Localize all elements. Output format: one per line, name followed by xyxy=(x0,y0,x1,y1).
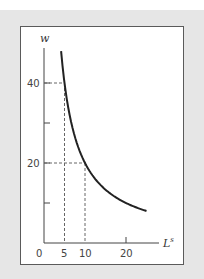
x-axis-label: Ls xyxy=(162,236,174,250)
y-axis-label: w xyxy=(40,32,50,45)
x-axis-label-main: L xyxy=(162,237,170,250)
x-tick-label-20: 20 xyxy=(120,248,133,259)
x-tick-label-5: 5 xyxy=(61,248,67,259)
x-tick-label-10: 10 xyxy=(79,248,92,259)
chart-svg: 40 20 0 5 10 20 w Ls xyxy=(0,0,204,279)
x-axis-label-sup: s xyxy=(170,236,174,244)
y-tick-label-20: 20 xyxy=(27,158,40,169)
y-ticks xyxy=(44,83,50,203)
reference-dashes xyxy=(44,83,85,243)
supply-curve xyxy=(61,51,146,211)
x-tick-label-0: 0 xyxy=(36,248,42,259)
y-tick-label-40: 40 xyxy=(27,78,40,89)
